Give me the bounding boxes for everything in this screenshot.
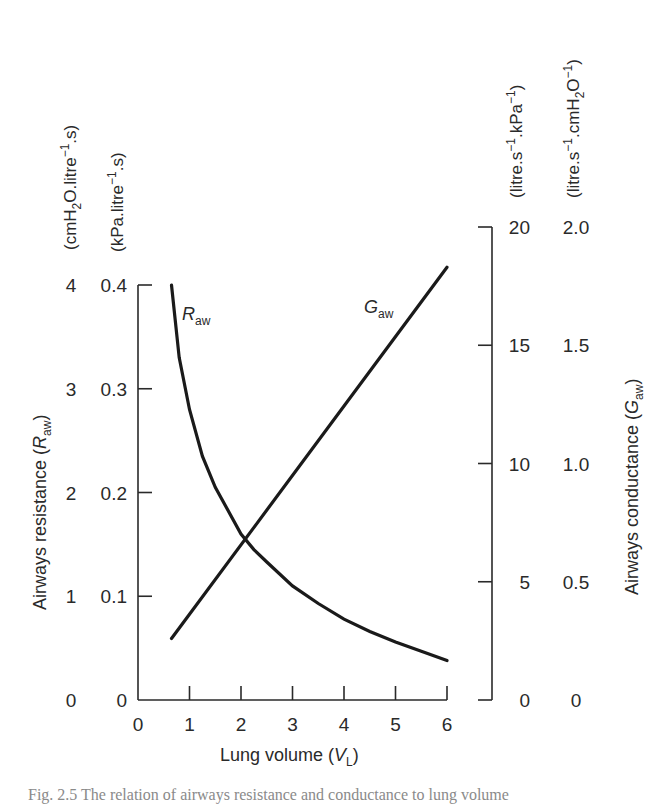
right-inner-tick-labels: 05101520: [509, 217, 530, 711]
x-axis-title: Lung volume (VL): [220, 745, 359, 769]
left-outer-tick-label: 4: [66, 275, 77, 296]
x-tick-label: 2: [236, 714, 247, 735]
x-tick-label: 5: [390, 714, 401, 735]
figure-caption: Fig. 2.5 The relation of airways resista…: [28, 786, 509, 804]
left-axis-title: Airways resistance (Raw): [30, 415, 54, 610]
gaw-line: [172, 267, 448, 638]
x-tick-label: 1: [184, 714, 195, 735]
x-axis: [138, 686, 447, 700]
x-tick-label: 0: [133, 714, 144, 735]
right-outer-tick-labels: 00.51.01.52.0: [563, 217, 589, 711]
left-unit-outer: (cmH2O.litre−1.s): [58, 125, 84, 250]
right-inner-tick-label: 0: [519, 690, 530, 711]
x-tick-label: 3: [287, 714, 298, 735]
right-unit-outer: (litre.s−1.cmH2O−1): [561, 59, 587, 198]
right-outer-tick-label: 1.0: [563, 454, 589, 475]
right-outer-tick-label: 0.5: [563, 572, 589, 593]
right-outer-tick-label: 2.0: [563, 217, 589, 238]
right-inner-tick-label: 20: [509, 217, 530, 238]
right-inner-tick-label: 5: [519, 572, 530, 593]
right-axis-title: Airways conductance (Gaw): [622, 379, 646, 595]
left-inner-tick-labels: 00.10.20.30.4: [101, 275, 128, 711]
right-outer-tick-label: 0: [571, 690, 582, 711]
left-outer-tick-label: 1: [66, 586, 77, 607]
raw-series-label: Raw: [182, 304, 211, 328]
left-inner-tick-label: 0.4: [101, 275, 128, 296]
left-inner-tick-label: 0.3: [101, 379, 127, 400]
right-outer-tick-label: 1.5: [563, 335, 589, 356]
left-y-axis: [138, 285, 152, 700]
gaw-series-label: Gaw: [364, 297, 394, 321]
left-outer-tick-label: 0: [66, 690, 77, 711]
x-tick-label: 6: [442, 714, 453, 735]
left-outer-tick-label: 2: [66, 483, 77, 504]
left-outer-tick-labels: 01234: [66, 275, 77, 711]
right-inner-tick-label: 10: [509, 454, 530, 475]
left-inner-tick-label: 0: [116, 690, 127, 711]
x-tick-labels: 0123456: [133, 714, 453, 735]
right-unit-inner: (litre.s−1.kPa−1): [504, 85, 526, 198]
left-outer-tick-label: 3: [66, 379, 77, 400]
left-inner-tick-label: 0.2: [101, 483, 127, 504]
x-tick-label: 4: [339, 714, 350, 735]
raw-curve: [172, 285, 448, 661]
left-unit-inner: (kPa.litre−1.s): [105, 152, 127, 252]
left-inner-tick-label: 0.1: [101, 586, 127, 607]
right-inner-tick-label: 15: [509, 335, 530, 356]
right-y-axis: [478, 227, 492, 700]
